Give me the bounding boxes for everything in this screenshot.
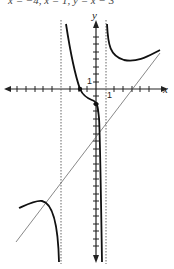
curve: [19, 24, 160, 262]
curve-right-branch: [107, 24, 160, 61]
y-axis-up-arrow-icon: [93, 20, 99, 28]
x-intercept-point: [78, 87, 82, 91]
y-axis-label: y: [91, 9, 97, 21]
graph: x 1 y 1: [0, 0, 174, 269]
x-axis-label: x: [162, 83, 168, 95]
x-tick-label-1: 1: [107, 90, 112, 100]
x-axis-left-arrow-icon: [4, 86, 11, 92]
y-tick-label-1: 1: [87, 76, 92, 86]
asymptotes: [16, 20, 160, 264]
curve-left-branch: [19, 201, 59, 262]
y-axis-down-arrow-icon: [93, 255, 99, 263]
y-intercept-point: [94, 102, 98, 106]
